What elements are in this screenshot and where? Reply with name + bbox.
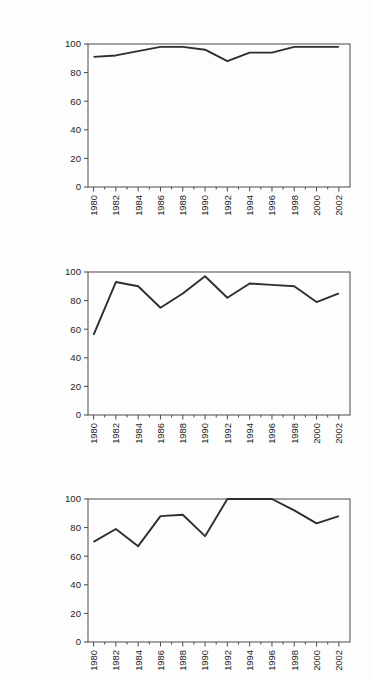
plot-area-house: 0204060801001980198219841986198819901992…: [0, 0, 373, 226]
y-tick-label: 80: [70, 67, 81, 78]
line-chart-governors: 0204060801001980198219841986198819901992…: [0, 455, 373, 680]
x-tick-label: 1988: [177, 650, 188, 671]
x-tick-label: 1980: [88, 650, 99, 671]
x-tick-label: 1980: [88, 423, 99, 444]
x-tick-label: 1990: [199, 423, 210, 444]
data-series-line: [94, 499, 339, 546]
x-tick-label: 1982: [110, 423, 121, 444]
x-tick-label: 1996: [266, 195, 277, 216]
y-tick-label: 0: [76, 409, 81, 420]
x-tick-label: 1986: [155, 423, 166, 444]
y-tick-label: 40: [70, 579, 81, 590]
y-tick-label: 60: [70, 551, 81, 562]
y-tick-label: 80: [70, 522, 81, 533]
plot-area-governors: 0204060801001980198219841986198819901992…: [0, 455, 373, 680]
x-tick-label: 1998: [289, 423, 300, 444]
x-tick-label: 1994: [244, 650, 255, 671]
plot-frame: [88, 272, 350, 415]
x-tick-label: 1996: [266, 423, 277, 444]
x-tick-label: 1994: [244, 195, 255, 216]
chart-panel-governors: Percentage of Govenors Running for Re-el…: [0, 455, 373, 680]
x-tick-label: 2000: [311, 650, 322, 671]
x-tick-label: 1992: [222, 650, 233, 671]
x-tick-label: 1992: [222, 195, 233, 216]
x-tick-label: 1996: [266, 650, 277, 671]
x-tick-label: 1988: [177, 423, 188, 444]
data-series-line: [94, 276, 339, 335]
y-tick-label: 60: [70, 96, 81, 107]
line-chart-house: 0204060801001980198219841986198819901992…: [0, 0, 373, 226]
plot-area-senate: 0204060801001980198219841986198819901992…: [0, 228, 373, 454]
x-tick-label: 1990: [199, 650, 210, 671]
x-tick-label: 1984: [133, 650, 144, 671]
x-tick-label: 1998: [289, 650, 300, 671]
x-tick-label: 1998: [289, 195, 300, 216]
chart-panel-house: Percentage of U.S. House Members Running…: [0, 0, 373, 226]
x-tick-label: 1984: [133, 195, 144, 216]
x-tick-label: 2002: [333, 423, 344, 444]
data-series-line: [94, 47, 339, 61]
x-tick-label: 1986: [155, 195, 166, 216]
plot-frame: [88, 44, 350, 187]
y-tick-label: 20: [70, 381, 81, 392]
y-tick-label: 0: [76, 181, 81, 192]
x-tick-label: 1990: [199, 195, 210, 216]
x-tick-label: 2000: [311, 423, 322, 444]
x-tick-label: 1988: [177, 195, 188, 216]
figure-page: Percentage of U.S. House Members Running…: [0, 0, 373, 680]
y-tick-label: 80: [70, 295, 81, 306]
y-tick-label: 100: [65, 493, 81, 504]
y-tick-label: 20: [70, 608, 81, 619]
y-tick-label: 0: [76, 636, 81, 647]
x-tick-label: 1994: [244, 423, 255, 444]
x-tick-label: 2000: [311, 195, 322, 216]
x-tick-label: 2002: [333, 195, 344, 216]
x-tick-label: 1982: [110, 650, 121, 671]
x-tick-label: 1984: [133, 423, 144, 444]
y-tick-label: 20: [70, 153, 81, 164]
y-tick-label: 40: [70, 352, 81, 363]
x-tick-label: 1992: [222, 423, 233, 444]
y-tick-label: 100: [65, 38, 81, 49]
x-tick-label: 2002: [333, 650, 344, 671]
x-tick-label: 1982: [110, 195, 121, 216]
y-tick-label: 100: [65, 266, 81, 277]
x-tick-label: 1986: [155, 650, 166, 671]
line-chart-senate: 0204060801001980198219841986198819901992…: [0, 228, 373, 454]
x-tick-label: 1980: [88, 195, 99, 216]
y-tick-label: 40: [70, 124, 81, 135]
y-tick-label: 60: [70, 324, 81, 335]
chart-panel-senate: Percentage of U.S. Senators Running for …: [0, 228, 373, 454]
